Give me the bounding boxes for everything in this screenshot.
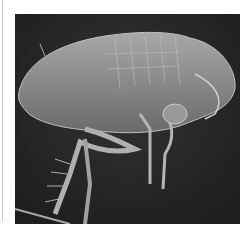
flea-illustration xyxy=(15,14,240,224)
left-divider xyxy=(2,0,3,221)
flea-sem-image xyxy=(15,14,240,224)
